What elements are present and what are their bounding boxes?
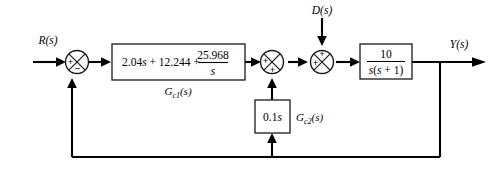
error-summing-junction: + − — [66, 51, 89, 75]
rate-feedback-expression: 0.1s — [263, 111, 282, 123]
summer2-sign-left: + — [263, 55, 269, 66]
wire-plant-to-output — [412, 57, 486, 67]
block-diagram-figure: 2.04s + 12.244 + 25.968 s Gc1(s) 0.1s Gc… — [0, 0, 500, 174]
wire-summer2-to-summer3 — [288, 57, 308, 67]
wire-disturbance-input — [317, 18, 327, 46]
svg-text:Gc1(s): Gc1(s) — [164, 85, 191, 100]
wire-outer-feedback — [67, 78, 77, 157]
controller-block: 2.04s + 12.244 + 25.968 s — [112, 44, 245, 80]
summer3-sign-top: + — [319, 48, 325, 59]
block-diagram-canvas: 2.04s + 12.244 + 25.968 s Gc1(s) 0.1s Gc… — [0, 0, 500, 174]
rate-label-sub: c2 — [304, 117, 312, 126]
controller-label-base: G — [164, 85, 172, 97]
rate-label-tail: (s) — [312, 111, 324, 124]
svg-text:Gc2(s): Gc2(s) — [296, 111, 323, 126]
plant-block: 10 s(s + 1) — [360, 44, 412, 79]
rate-feedback-block: 0.1s — [255, 100, 290, 133]
controller-fraction-denominator: s — [211, 65, 216, 77]
plant-fraction-denominator: s(s + 1) — [369, 64, 404, 77]
controller-fraction-numerator: 25.968 — [197, 49, 229, 61]
controller-label-tail: (s) — [180, 85, 192, 98]
output-signal-label: Y(s) — [450, 38, 469, 51]
controller-label-sub: c1 — [172, 91, 180, 100]
controller-expression: 2.04s + 12.244 + — [122, 56, 200, 68]
summer1-sign-left: + — [68, 56, 74, 67]
disturbance-signal-label: D(s) — [311, 4, 333, 17]
plant-fraction-numerator: 10 — [380, 48, 392, 60]
wire-controller-to-summer2 — [245, 57, 261, 67]
wire-summer3-to-plant — [336, 57, 360, 67]
wire-rate-block-to-summer2 — [267, 78, 277, 100]
rate-feedback-summing-junction: + + — [261, 51, 284, 75]
rate-feedback-variable: s — [277, 111, 282, 123]
summer1-sign-bottom: − — [75, 63, 81, 74]
rate-feedback-block-label: Gc2(s) — [296, 111, 323, 126]
controller-block-label: Gc1(s) — [164, 85, 191, 100]
summer3-sign-left: + — [313, 57, 319, 68]
summer2-sign-bottom: + — [270, 64, 276, 75]
wire-reference-input — [33, 57, 66, 67]
rate-feedback-gain: 0.1 — [263, 111, 278, 123]
reference-signal-label: R(s) — [37, 34, 57, 47]
rate-label-base: G — [296, 111, 304, 123]
disturbance-summing-junction: + + — [311, 48, 334, 74]
wire-rate-feedback-tap — [267, 133, 277, 157]
wire-error-to-controller — [88, 57, 111, 67]
